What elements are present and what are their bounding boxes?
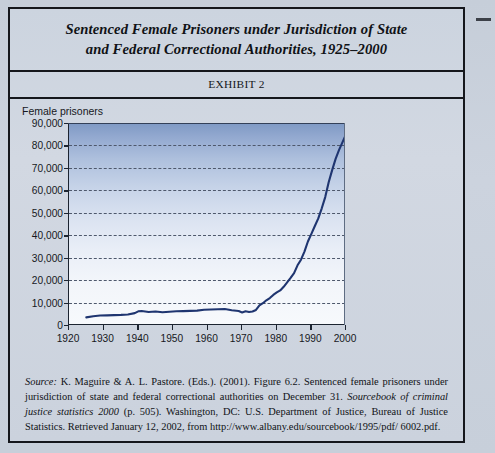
x-tick-mark-1930 bbox=[103, 325, 104, 330]
x-tick-label-1950: 1950 bbox=[161, 333, 184, 344]
plot-area bbox=[68, 123, 345, 325]
source-note: Source: K. Maguire & A. L. Pastore. (Eds… bbox=[25, 375, 448, 435]
chart-area: Female prisoners 010,00020,00030,00040,0… bbox=[10, 97, 463, 365]
y-tick-mark-30000 bbox=[64, 258, 68, 259]
y-tick-mark-10000 bbox=[64, 303, 68, 304]
y-tick-mark-70000 bbox=[64, 168, 68, 169]
y-tick-mark-50000 bbox=[64, 213, 68, 214]
x-tick-label-1930: 1930 bbox=[91, 333, 114, 344]
x-tick-mark-1960 bbox=[207, 325, 208, 330]
series-line-sentenced-female-prisoners bbox=[69, 123, 345, 325]
x-tick-label-1970: 1970 bbox=[230, 333, 253, 344]
y-tick-mark-20000 bbox=[64, 280, 68, 281]
x-tick-mark-1940 bbox=[137, 325, 138, 330]
exhibit-container: Sentenced Female Prisoners under Jurisdi… bbox=[8, 7, 465, 443]
y-tick-label-70000: 70,000 bbox=[32, 162, 63, 173]
source-note-cell: Source: K. Maguire & A. L. Pastore. (Eds… bbox=[10, 365, 463, 441]
plot-wrapper: 010,00020,00030,00040,00050,00060,00070,… bbox=[10, 97, 467, 365]
x-tick-label-1940: 1940 bbox=[126, 333, 149, 344]
y-tick-mark-90000 bbox=[64, 123, 68, 124]
x-tick-mark-1950 bbox=[172, 325, 173, 330]
x-tick-label-2000: 2000 bbox=[334, 333, 357, 344]
y-tick-mark-60000 bbox=[64, 190, 68, 191]
x-tick-label-1980: 1980 bbox=[264, 333, 287, 344]
x-tick-mark-1980 bbox=[276, 325, 277, 330]
y-tick-label-80000: 80,000 bbox=[32, 140, 63, 151]
x-tick-label-1960: 1960 bbox=[195, 333, 218, 344]
exhibit-title-line-1: Sentenced Female Prisoners under Jurisdi… bbox=[66, 21, 408, 37]
y-tick-label-60000: 60,000 bbox=[32, 185, 63, 196]
exhibit-label-cell: EXHIBIT 2 bbox=[10, 70, 463, 97]
x-tick-mark-2000 bbox=[345, 325, 346, 330]
y-tick-label-30000: 30,000 bbox=[32, 252, 63, 263]
page-title: Sentenced Female Prisoners under Jurisdi… bbox=[46, 20, 428, 59]
x-tick-mark-1920 bbox=[68, 325, 69, 330]
plot-top-border bbox=[68, 123, 345, 124]
y-tick-mark-80000 bbox=[64, 145, 68, 146]
y-tick-label-10000: 10,000 bbox=[32, 297, 63, 308]
page-background: Sentenced Female Prisoners under Jurisdi… bbox=[0, 0, 495, 453]
y-tick-label-90000: 90,000 bbox=[32, 118, 63, 129]
x-tick-mark-1990 bbox=[310, 325, 311, 330]
x-tick-mark-1970 bbox=[241, 325, 242, 330]
page-edge-mark bbox=[476, 18, 491, 21]
y-tick-mark-40000 bbox=[64, 235, 68, 236]
y-tick-label-50000: 50,000 bbox=[32, 207, 63, 218]
plot-right-border bbox=[344, 123, 345, 325]
x-tick-label-1990: 1990 bbox=[299, 333, 322, 344]
y-tick-label-20000: 20,000 bbox=[32, 275, 63, 286]
y-tick-label-0: 0 bbox=[57, 320, 63, 331]
source-label: Source: bbox=[25, 376, 57, 387]
x-tick-label-1920: 1920 bbox=[57, 333, 80, 344]
exhibit-label: EXHIBIT 2 bbox=[208, 78, 265, 90]
exhibit-title-cell: Sentenced Female Prisoners under Jurisdi… bbox=[10, 9, 463, 70]
y-tick-label-40000: 40,000 bbox=[32, 230, 63, 241]
exhibit-title-line-2: and Federal Correctional Authorities, 19… bbox=[86, 41, 387, 57]
